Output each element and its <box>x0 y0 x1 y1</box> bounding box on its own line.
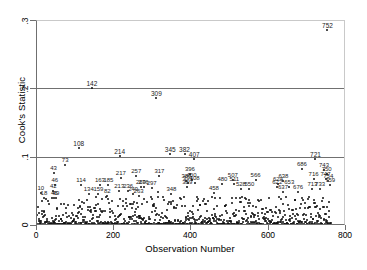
data-point <box>262 223 264 225</box>
data-point <box>109 216 111 218</box>
data-point <box>149 218 151 220</box>
data-point <box>203 198 205 200</box>
data-point <box>261 212 263 214</box>
data-point <box>94 207 96 209</box>
point-label: 721 <box>310 151 321 158</box>
data-point <box>282 203 284 205</box>
point-label: 348 <box>166 186 176 193</box>
data-point <box>202 223 204 225</box>
point-label: 407 <box>189 151 200 158</box>
point-label: 108 <box>73 140 84 147</box>
point-label: 297 <box>147 180 157 187</box>
data-point <box>196 200 198 202</box>
data-point <box>304 207 306 209</box>
data-point <box>131 207 133 209</box>
data-point-labeled <box>301 168 303 170</box>
data-point <box>226 212 228 214</box>
data-point <box>247 202 249 204</box>
data-point <box>285 219 287 221</box>
data-point <box>246 223 248 225</box>
point-label: 134 <box>84 186 94 193</box>
data-point <box>249 202 251 204</box>
point-label: 637 <box>278 184 288 191</box>
data-point <box>91 218 93 220</box>
data-point <box>127 223 129 225</box>
x-axis-title: Observation Number <box>30 243 350 254</box>
data-point <box>283 210 285 212</box>
data-point <box>225 204 227 206</box>
data-point <box>154 210 156 212</box>
point-label: 752 <box>322 22 333 29</box>
data-point <box>295 208 297 210</box>
data-point <box>294 215 296 217</box>
data-point <box>89 206 91 208</box>
data-point <box>291 217 293 219</box>
data-point <box>70 217 72 219</box>
data-point-labeled <box>255 179 257 181</box>
data-point <box>271 211 273 213</box>
point-label: 43 <box>50 165 57 172</box>
data-point <box>97 203 99 205</box>
data-point <box>136 202 138 204</box>
data-point <box>272 215 274 217</box>
data-point <box>313 199 315 201</box>
data-point <box>60 203 62 205</box>
data-point <box>66 216 68 218</box>
data-point-labeled <box>194 182 196 184</box>
data-point <box>258 200 260 202</box>
data-point <box>307 198 309 200</box>
data-point <box>72 214 74 216</box>
data-point-labeled <box>97 193 99 195</box>
data-point <box>143 217 145 219</box>
data-point <box>98 216 100 218</box>
data-point-labeled <box>78 147 80 149</box>
data-point <box>77 217 79 219</box>
data-point <box>308 196 310 198</box>
data-point <box>257 215 259 217</box>
data-point <box>207 200 209 202</box>
data-point <box>134 211 136 213</box>
data-point <box>299 223 301 225</box>
data-point <box>141 203 143 205</box>
data-point <box>111 200 113 202</box>
data-point <box>214 213 216 215</box>
data-point <box>126 205 128 207</box>
data-point-labeled <box>158 175 160 177</box>
data-point <box>180 198 182 200</box>
point-label: 114 <box>76 177 86 184</box>
point-label: 345 <box>165 146 176 153</box>
data-point <box>221 214 223 216</box>
point-label: 759 <box>325 177 335 184</box>
data-point-labeled <box>107 184 109 186</box>
data-point <box>151 211 153 213</box>
data-point <box>258 218 260 220</box>
data-point <box>279 210 281 212</box>
data-point <box>117 205 119 207</box>
data-point <box>243 206 245 208</box>
data-point <box>181 205 183 207</box>
data-point <box>317 220 319 222</box>
data-point <box>325 213 327 215</box>
data-point-labeled <box>119 155 121 157</box>
data-point <box>250 216 252 218</box>
data-point <box>145 220 147 222</box>
data-point <box>41 200 43 202</box>
point-label: 716 <box>309 171 319 178</box>
data-point <box>174 219 176 221</box>
data-point <box>216 205 218 207</box>
data-point <box>119 198 121 200</box>
data-point <box>223 219 225 221</box>
data-point <box>271 219 273 221</box>
data-point <box>55 218 57 220</box>
data-point <box>306 219 308 221</box>
data-point-labeled <box>311 188 313 190</box>
data-point <box>213 208 215 210</box>
data-point-labeled <box>282 191 284 193</box>
data-point <box>172 200 174 202</box>
data-point <box>43 210 45 212</box>
point-label: 159 <box>93 186 103 193</box>
data-point <box>316 205 318 207</box>
data-point-labeled <box>314 158 316 160</box>
data-point <box>200 215 202 217</box>
data-point <box>48 203 50 205</box>
